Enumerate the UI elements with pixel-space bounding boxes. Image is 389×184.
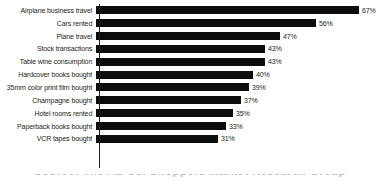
bar-row: Hardcover books bought40% [0,68,389,81]
bar-row: Champagne bought37% [0,94,389,107]
bar-value-label: 43% [268,57,282,66]
bar-row: 35mm color print film bought39% [0,81,389,94]
bar-category-label: Paperback books bought [5,122,96,131]
bar-category-label: Hardcover books bought [5,70,96,79]
bars-container: Airplane business travel67%Cars rented56… [0,4,389,145]
bar-category-label: Plane travel [5,32,96,41]
bar-value-label: 56% [319,19,333,28]
bar-value-label: 35% [236,109,250,118]
bar [96,19,316,27]
bar [96,58,265,66]
bar [96,32,280,40]
plot-area: Airplane business travel67%Cars rented56… [0,4,389,145]
bar-row: Paperback books bought33% [0,120,389,133]
clipped-caption-strip: Source: The Ad Co. Shoppers Market Resea… [0,174,389,184]
bar-category-label: VCR tapes bought [5,134,96,143]
bar-track: 40% [96,68,389,81]
bar-row: Plane travel47% [0,30,389,43]
bar-value-label: 40% [256,70,270,79]
bar [96,71,253,79]
bar [96,122,226,130]
bar-chart: Airplane business travel67%Cars rented56… [0,0,389,184]
bar-row: VCR tapes bought31% [0,132,389,145]
bar-track: 43% [96,43,389,56]
bar-category-label: Airplane business travel [5,6,96,15]
category-axis-line [99,4,100,168]
bar [96,135,218,143]
bar-value-label: 31% [221,134,235,143]
bar-category-label: Cars rented [5,19,96,28]
bar-track: 47% [96,30,389,43]
bar [96,109,233,117]
bar-track: 35% [96,107,389,120]
bar-category-label: Champagne bought [5,96,96,105]
bar-category-label: 35mm color print film bought [5,83,96,92]
bar-value-label: 33% [229,122,243,131]
bar-row: Stock transactions43% [0,43,389,56]
bar [96,6,359,14]
clipped-caption-text: Source: The Ad Co. Shoppers Market Resea… [34,174,346,177]
bar-track: 67% [96,4,389,17]
bar-row: Airplane business travel67% [0,4,389,17]
bar-value-label: 37% [244,96,258,105]
bar-category-label: Stock transactions [5,44,96,53]
bar-track: 31% [96,132,389,145]
bar-track: 33% [96,120,389,133]
bar [96,45,265,53]
bar-row: Table wine consumption43% [0,55,389,68]
bar [96,83,249,91]
bar-row: Hotel rooms rented35% [0,107,389,120]
bar-category-label: Hotel rooms rented [5,109,96,118]
bar-value-label: 47% [283,32,297,41]
bar-track: 39% [96,81,389,94]
bar-category-label: Table wine consumption [5,57,96,66]
bar-value-label: 67% [362,6,376,15]
bar-row: Cars rented56% [0,17,389,30]
bar-track: 56% [96,17,389,30]
bar [96,96,241,104]
bar-value-label: 39% [252,83,266,92]
bar-track: 37% [96,94,389,107]
bar-value-label: 43% [268,44,282,53]
bar-track: 43% [96,55,389,68]
